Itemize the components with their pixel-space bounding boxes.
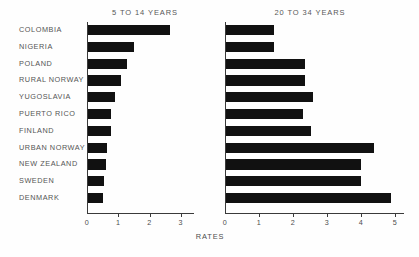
bar: [88, 126, 111, 136]
bar: [226, 143, 374, 153]
bar: [226, 193, 391, 203]
bar: [226, 59, 304, 69]
plot-panel-20-to-34-years: 012345: [225, 22, 410, 213]
bar-group-right: [226, 22, 411, 213]
x-axis-tick-label: 0: [223, 218, 227, 227]
category-label: NEW ZEALAND: [19, 156, 83, 173]
category-label: NIGERIA: [19, 39, 83, 56]
x-axis-tick-label: 1: [257, 218, 261, 227]
bar: [88, 25, 169, 35]
bar: [88, 75, 121, 85]
bar-row: [88, 140, 206, 157]
bar-row: [226, 106, 411, 123]
x-axis-tick: [259, 213, 260, 217]
bar-row: [88, 56, 206, 73]
bar: [88, 176, 104, 186]
x-axis-tick: [118, 213, 119, 217]
bar: [88, 143, 107, 153]
bar: [88, 109, 111, 119]
bar: [226, 92, 313, 102]
bar-row: [88, 39, 206, 56]
category-label: PUERTO RICO: [19, 106, 83, 123]
bar-row: [226, 190, 411, 207]
bar-row: [226, 123, 411, 140]
bar: [88, 193, 103, 203]
category-label: POLAND: [19, 56, 83, 73]
bar: [226, 126, 311, 136]
bar-group-left: [88, 22, 206, 213]
x-axis-tick-label: 5: [393, 218, 397, 227]
x-axis-tick-label: 1: [116, 218, 120, 227]
x-axis-tick: [181, 213, 182, 217]
category-label: RURAL NORWAY: [19, 72, 83, 89]
x-axis-tick-label: 2: [147, 218, 151, 227]
bar-row: [226, 39, 411, 56]
x-axis-tick: [395, 213, 396, 217]
bar-row: [226, 156, 411, 173]
bar-row: [226, 56, 411, 73]
x-axis-line-left: [87, 213, 194, 214]
panel-title-right: 20 TO 34 YEARS: [255, 8, 365, 17]
x-axis-tick-label: 2: [291, 218, 295, 227]
bar: [226, 75, 304, 85]
category-label: YUGOSLAVIA: [19, 89, 83, 106]
bar-row: [88, 123, 206, 140]
bar: [88, 42, 133, 52]
x-axis-tick-label: 4: [359, 218, 363, 227]
bar-row: [226, 72, 411, 89]
bar-row: [226, 173, 411, 190]
bar: [226, 42, 274, 52]
bar-row: [226, 89, 411, 106]
bar: [88, 159, 105, 169]
bar-row: [226, 22, 411, 39]
category-label: URBAN NORWAY: [19, 140, 83, 157]
category-label: DENMARK: [19, 190, 83, 207]
category-label: COLOMBIA: [19, 22, 83, 39]
plot-panel-5-to-14-years: 0123: [87, 22, 205, 213]
x-axis-caption: RATES: [180, 232, 240, 241]
bar: [88, 92, 115, 102]
category-label: FINLAND: [19, 123, 83, 140]
x-axis-line-right: [225, 213, 404, 214]
bar: [226, 159, 360, 169]
x-axis-tick-label: 0: [85, 218, 89, 227]
x-axis-tick: [327, 213, 328, 217]
bar: [226, 176, 360, 186]
x-axis-tick-label: 3: [325, 218, 329, 227]
bar-row: [88, 156, 206, 173]
bar-chart-figure: 5 TO 14 YEARS 20 TO 34 YEARS COLOMBIANIG…: [0, 0, 419, 257]
bar: [226, 109, 302, 119]
panel-title-left: 5 TO 14 YEARS: [95, 8, 195, 17]
category-axis-labels: COLOMBIANIGERIAPOLANDRURAL NORWAYYUGOSLA…: [19, 22, 83, 207]
x-axis-tick-label: 3: [179, 218, 183, 227]
bar: [226, 25, 274, 35]
bar-row: [88, 173, 206, 190]
bar-row: [226, 140, 411, 157]
bar-row: [88, 190, 206, 207]
bar-row: [88, 22, 206, 39]
bar: [88, 59, 127, 69]
x-axis-tick: [293, 213, 294, 217]
x-axis-tick: [150, 213, 151, 217]
category-label: SWEDEN: [19, 173, 83, 190]
bar-row: [88, 72, 206, 89]
x-axis-tick: [361, 213, 362, 217]
bar-row: [88, 89, 206, 106]
bar-row: [88, 106, 206, 123]
